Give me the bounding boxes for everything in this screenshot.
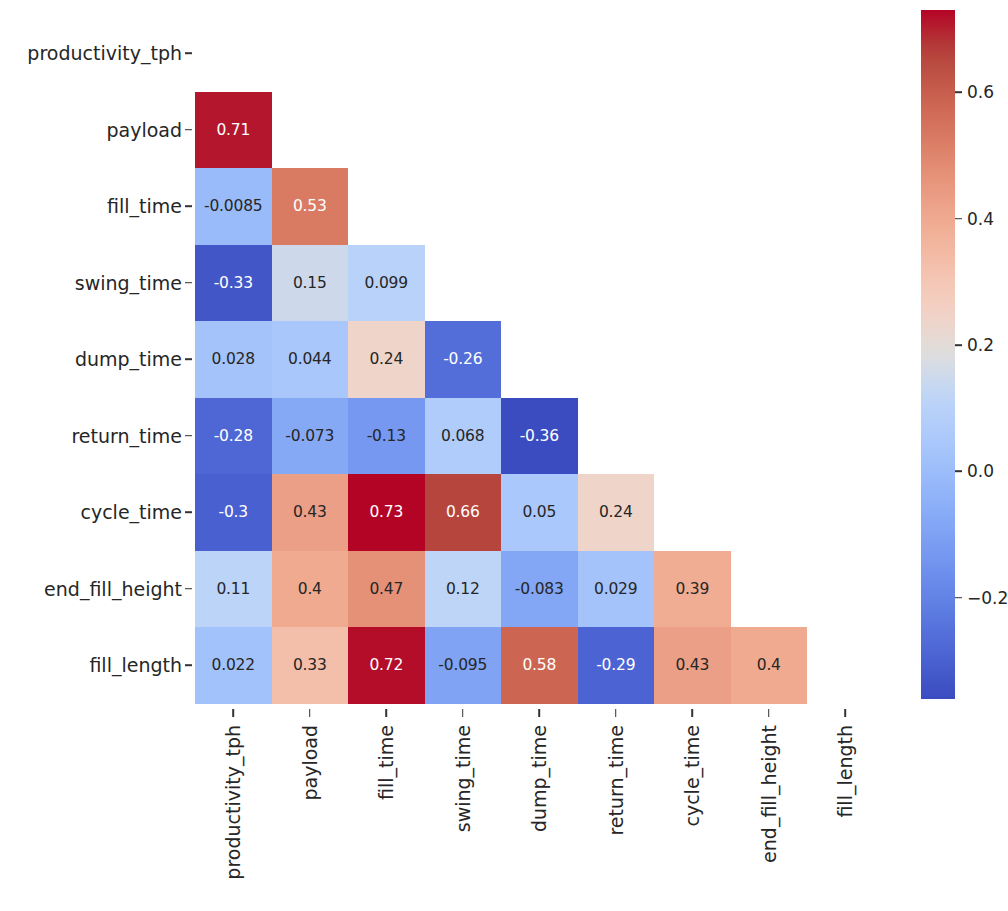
- heatmap-cell: 0.044: [272, 321, 349, 398]
- x-axis-tick-mark: [385, 709, 387, 717]
- heatmap-cell: 0.73: [348, 474, 425, 551]
- y-axis-tick-label: fill_length: [89, 656, 182, 675]
- colorbar-tick-label: −0.2: [967, 589, 1008, 606]
- y-axis-tick-mark: [185, 358, 192, 360]
- heatmap-cell: 0.58: [501, 627, 578, 704]
- heatmap-cell: 0.12: [425, 551, 502, 628]
- x-axis-tick-label: end_fill_height: [759, 725, 778, 863]
- x-axis-tick-label: payload: [300, 725, 319, 801]
- y-axis-tick-mark: [185, 52, 192, 54]
- y-axis-tick-mark: [185, 129, 192, 131]
- heatmap-cell: -0.29: [578, 627, 655, 704]
- y-axis-tick-mark: [185, 205, 192, 207]
- y-axis-tick-label: swing_time: [75, 273, 182, 292]
- heatmap-cell: 0.24: [578, 474, 655, 551]
- heatmap-cell: 0.47: [348, 551, 425, 628]
- x-axis-tick-mark: [615, 709, 617, 717]
- heatmap-cell: 0.33: [272, 627, 349, 704]
- heatmap-cell: -0.28: [195, 398, 272, 475]
- heatmap-cell: -0.36: [501, 398, 578, 475]
- x-axis-tick-label: fill_time: [377, 725, 396, 800]
- x-axis-tick-label: swing_time: [453, 725, 472, 832]
- colorbar-tick-mark: [955, 597, 962, 599]
- colorbar-tick-mark: [955, 218, 962, 220]
- heatmap-cell: -0.073: [272, 398, 349, 475]
- heatmap-cell: 0.022: [195, 627, 272, 704]
- x-axis-tick-mark: [462, 709, 464, 717]
- y-axis-tick-label: productivity_tph: [27, 44, 182, 63]
- heatmap-cell: -0.13: [348, 398, 425, 475]
- colorbar: [921, 10, 955, 699]
- heatmap-cell: 0.39: [654, 551, 731, 628]
- heatmap-cell: 0.029: [578, 551, 655, 628]
- heatmap-cell: 0.05: [501, 474, 578, 551]
- x-axis-tick-label: return_time: [606, 725, 625, 836]
- heatmap-cell: 0.028: [195, 321, 272, 398]
- x-axis-tick-mark: [844, 709, 846, 717]
- colorbar-tick-label: 0.4: [967, 210, 994, 227]
- y-axis-tick-label: fill_time: [107, 197, 182, 216]
- colorbar-gradient: [921, 10, 955, 699]
- heatmap-cell: 0.24: [348, 321, 425, 398]
- x-axis-tick-label: fill_length: [836, 725, 855, 818]
- heatmap-cell: 0.068: [425, 398, 502, 475]
- heatmap-cell: -0.33: [195, 245, 272, 322]
- x-axis-labels: productivity_tphpayloadfill_timeswing_ti…: [195, 703, 807, 911]
- colorbar-tick-label: 0.0: [967, 463, 994, 480]
- y-axis-tick-label: dump_time: [75, 350, 182, 369]
- x-axis-tick-label: cycle_time: [683, 725, 702, 827]
- x-axis-tick-mark: [232, 709, 234, 717]
- heatmap-cell: 0.099: [348, 245, 425, 322]
- heatmap-cell: 0.71: [195, 92, 272, 169]
- colorbar-tick-mark: [955, 344, 962, 346]
- heatmap-cell: -0.3: [195, 474, 272, 551]
- x-axis-tick-label: productivity_tph: [224, 725, 243, 880]
- colorbar-tick-label: 0.2: [967, 337, 994, 354]
- y-axis-tick-mark: [185, 588, 192, 590]
- y-axis-tick-label: return_time: [71, 426, 182, 445]
- heatmap-cell: 0.72: [348, 627, 425, 704]
- heatmap-cell: 0.11: [195, 551, 272, 628]
- y-axis-tick-label: cycle_time: [80, 503, 182, 522]
- x-axis-tick-mark: [309, 709, 311, 717]
- y-axis-tick-mark: [185, 435, 192, 437]
- y-axis-tick-label: end_fill_height: [44, 579, 182, 598]
- colorbar-tick-mark: [955, 91, 962, 93]
- heatmap-cell: 0.15: [272, 245, 349, 322]
- colorbar-tick-label: 0.6: [967, 84, 994, 101]
- x-axis-tick-mark: [768, 709, 770, 717]
- heatmap-cell: 0.43: [654, 627, 731, 704]
- heatmap-cell: 0.4: [272, 551, 349, 628]
- y-axis-labels: productivity_tphpayloadfill_timeswing_ti…: [0, 0, 182, 911]
- x-axis-tick-label: dump_time: [530, 725, 549, 832]
- heatmap-cell: 0.53: [272, 168, 349, 245]
- heatmap-cell: -0.0085: [195, 168, 272, 245]
- heatmap-cell: -0.095: [425, 627, 502, 704]
- heatmap-cell: 0.43: [272, 474, 349, 551]
- x-axis-tick-mark: [538, 709, 540, 717]
- y-axis-tick-label: payload: [106, 120, 182, 139]
- colorbar-tick-mark: [955, 471, 962, 473]
- heatmap-cell: -0.083: [501, 551, 578, 628]
- heatmap-cell: -0.26: [425, 321, 502, 398]
- y-axis-tick-mark: [185, 282, 192, 284]
- y-axis-tick-mark: [185, 511, 192, 513]
- heatmap-cell: 0.66: [425, 474, 502, 551]
- y-axis-tick-mark: [185, 664, 192, 666]
- x-axis-tick-mark: [691, 709, 693, 717]
- heatmap-grid: 0.71-0.00850.53-0.330.150.0990.0280.0440…: [195, 15, 807, 703]
- colorbar-ticks: 0.60.40.20.0−0.2: [955, 0, 1006, 911]
- heatmap-cell: 0.4: [731, 627, 808, 704]
